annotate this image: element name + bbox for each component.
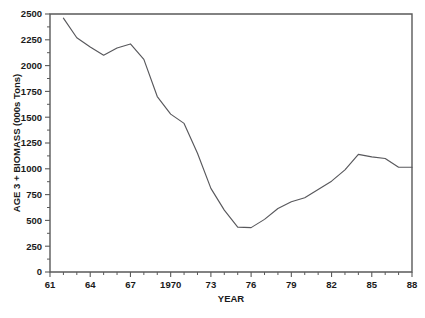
y-axis-title: AGE 3 + BIOMASS (000s Tons) [11, 74, 22, 212]
x-tick-label: 82 [326, 279, 337, 290]
x-tick-label: 79 [286, 279, 297, 290]
x-tick-label: 61 [45, 279, 56, 290]
y-tick-label: 1500 [21, 112, 42, 123]
y-tick-label: 0 [37, 266, 42, 277]
y-tick-label: 500 [26, 215, 42, 226]
y-tick-label: 2500 [21, 8, 42, 19]
biomass-line-chart: 02505007501000125015001750200022502500 6… [0, 0, 425, 318]
y-tick-label: 250 [26, 241, 42, 252]
x-axis-tick-labels: 6164671970737679828588 [45, 279, 418, 290]
y-tick-label: 1750 [21, 86, 42, 97]
x-tick-label: 85 [366, 279, 377, 290]
x-tick-label: 67 [125, 279, 136, 290]
x-tick-label: 64 [85, 279, 96, 290]
data-series-line [63, 18, 412, 227]
x-tick-label: 73 [206, 279, 217, 290]
y-tick-label: 750 [26, 189, 42, 200]
x-tick-label: 88 [407, 279, 418, 290]
y-tick-label: 2250 [21, 34, 42, 45]
x-tick-label: 1970 [160, 279, 181, 290]
chart-figure: 02505007501000125015001750200022502500 6… [0, 0, 425, 318]
y-tick-label: 2000 [21, 60, 42, 71]
y-tick-label: 1000 [21, 163, 42, 174]
x-tick-label: 76 [246, 279, 257, 290]
biomass-series-path [63, 18, 412, 227]
y-tick-label: 1250 [21, 137, 42, 148]
chart-axes [50, 14, 412, 272]
x-axis-title: YEAR [218, 293, 245, 304]
y-axis-tick-labels: 02505007501000125015001750200022502500 [21, 8, 42, 277]
